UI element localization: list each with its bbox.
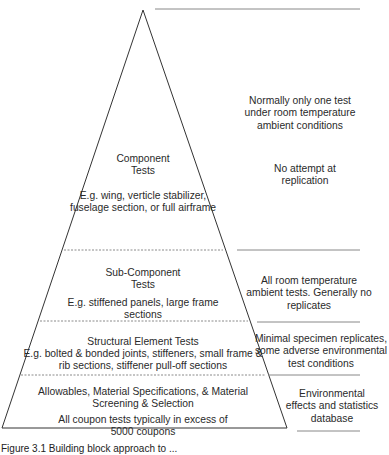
annotation-2: No attempt at replication — [255, 163, 355, 188]
annotation-1: Normally only one test under room temper… — [222, 95, 378, 132]
level-1-title: Component Tests — [93, 153, 193, 178]
annotation-4: Minimal specimen replicates, some advers… — [254, 333, 388, 370]
level-1-example: E.g. wing, verticle stabilizer, fuselage… — [66, 190, 220, 215]
level-4-title: Allowables, Material Specifications, & M… — [25, 386, 261, 411]
annotation-3: All room temperature ambient tests. Gene… — [240, 275, 378, 312]
level-2-example: E.g. stiffened panels, large frame secti… — [60, 297, 226, 322]
annotation-5: Environmental effects and statistics dat… — [282, 388, 382, 425]
figure-caption: Figure 3.1 Building block approach to ..… — [1, 443, 177, 454]
level-4-example: All coupon tests typically in excess of … — [40, 414, 246, 439]
level-3-title: Structural Element Tests — [60, 336, 226, 348]
level-3-example: E.g. bolted & bonded joints, stiffeners,… — [20, 348, 266, 373]
level-2-title: Sub-Component Tests — [83, 267, 203, 292]
